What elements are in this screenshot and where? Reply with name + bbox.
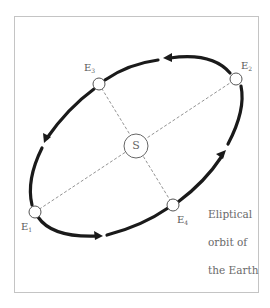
label-e2: E2 [241,61,252,72]
orbit-caption: Eliptical orbit of the Earth [208,193,258,291]
label-e4: E4 [177,215,188,226]
arrow-top-icon [163,53,172,62]
caption-line-2: orbit of [208,235,258,249]
caption-line-3: the Earth [208,263,258,277]
earth-e2-circle [230,73,242,85]
earth-e4-circle [167,199,179,211]
label-e1: E1 [21,222,32,233]
earth-e3-circle [93,78,105,90]
earth-e1-circle [29,206,41,218]
label-e3: E3 [84,63,95,74]
arrow-bottom-icon [94,231,103,240]
sun-label: S [126,139,146,152]
caption-line-1: Eliptical [208,207,258,221]
